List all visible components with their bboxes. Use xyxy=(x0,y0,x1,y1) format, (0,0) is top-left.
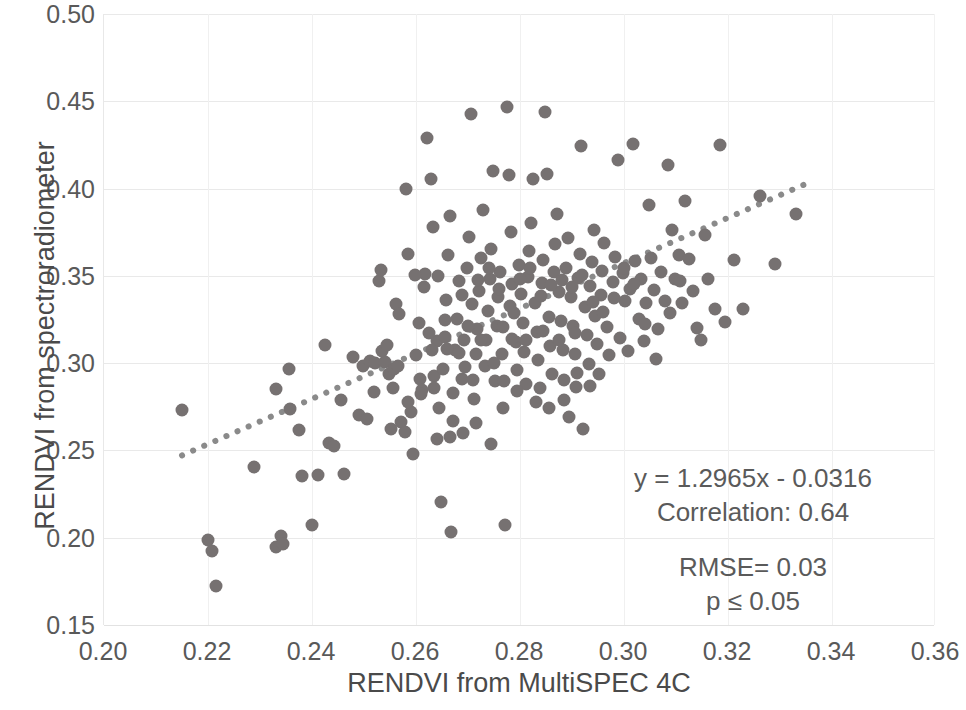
annotation-spacer xyxy=(598,530,908,550)
x-tick-label: 0.22 xyxy=(183,637,232,666)
y-axis-title: RENDVI from spectroradiometer xyxy=(30,26,61,646)
statistics-annotation: y = 1.2965x - 0.0316 Correlation: 0.64 R… xyxy=(598,461,908,618)
x-tick-label: 0.30 xyxy=(599,637,648,666)
rmse-value: RMSE= 0.03 xyxy=(598,550,908,584)
x-tick-label: 0.36 xyxy=(911,637,960,666)
p-value: p ≤ 0.05 xyxy=(598,584,908,618)
x-tick-label: 0.32 xyxy=(703,637,752,666)
scatter-chart-figure: 0.150.200.250.300.350.400.450.50 0.200.2… xyxy=(0,0,966,710)
x-tick-label: 0.28 xyxy=(495,637,544,666)
x-tick-label: 0.24 xyxy=(287,637,336,666)
x-axis-tick-labels: 0.200.220.240.260.280.300.320.340.36 xyxy=(0,637,966,671)
y-tick-label: 0.50 xyxy=(0,0,95,29)
gridline-horizontal xyxy=(104,625,934,626)
x-tick-label: 0.34 xyxy=(807,637,856,666)
x-tick-label: 0.26 xyxy=(391,637,440,666)
correlation-value: Correlation: 0.64 xyxy=(598,495,908,529)
trendline-path xyxy=(182,183,809,456)
x-tick-label: 0.20 xyxy=(79,637,128,666)
x-axis-title: RENDVI from MultiSPEC 4C xyxy=(103,668,935,699)
regression-equation: y = 1.2965x - 0.0316 xyxy=(598,461,908,495)
